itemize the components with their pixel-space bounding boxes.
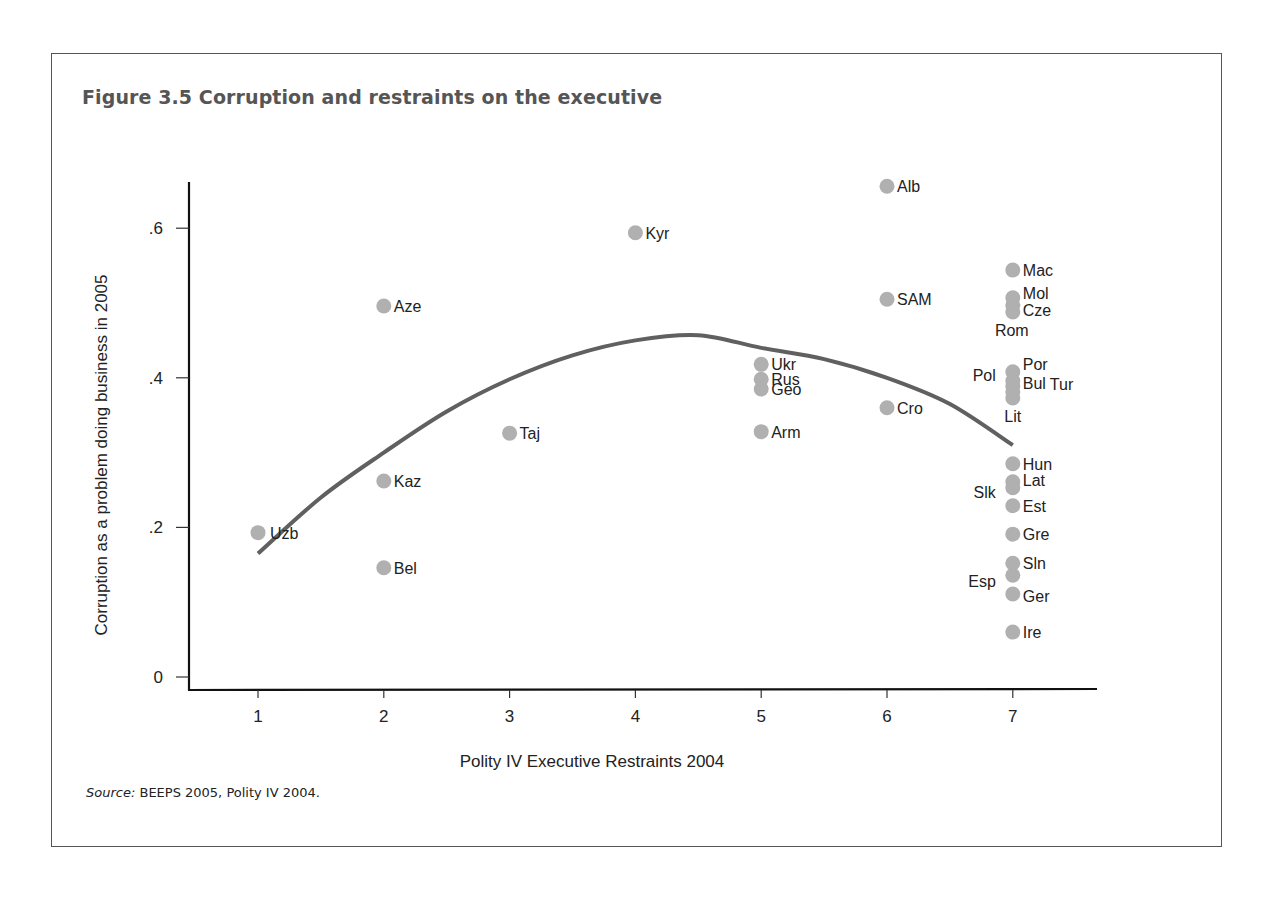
data-point-ire	[1005, 625, 1020, 640]
fit-curve	[258, 335, 1013, 554]
data-point-aze	[376, 298, 391, 313]
data-point-ger	[1005, 586, 1020, 601]
y-tick-label: .2	[149, 518, 163, 537]
point-label-sam: SAM	[897, 291, 932, 308]
point-label-est: Est	[1023, 498, 1047, 515]
point-label-mac: Mac	[1023, 262, 1053, 279]
data-point-kaz	[376, 474, 391, 489]
point-label-por: Por	[1023, 356, 1049, 373]
data-point-gre	[1005, 527, 1020, 542]
data-point-slk	[1005, 480, 1020, 495]
y-tick-label: .6	[149, 219, 163, 238]
point-label-aze: Aze	[394, 298, 422, 315]
point-label-esp: Esp	[968, 573, 996, 590]
point-label-mol: Mol	[1023, 285, 1049, 302]
data-points: UzbAzeKazBelTajKyrUkrRusGeoArmAlbSAMCroM…	[251, 178, 1074, 641]
x-axis-line	[188, 689, 1097, 690]
point-label-sln: Sln	[1023, 555, 1046, 572]
point-label-hun: Hun	[1023, 456, 1052, 473]
point-label-pol: Pol	[973, 367, 996, 384]
source-text: BEEPS 2005, Polity IV 2004.	[135, 785, 320, 800]
point-label-bul: Bul	[1023, 375, 1046, 392]
point-label-cro: Cro	[897, 400, 923, 417]
point-label-ger: Ger	[1023, 588, 1050, 605]
point-label-arm: Arm	[771, 424, 800, 441]
data-point-kyr	[628, 225, 643, 240]
quadratic-fit-line	[258, 335, 1013, 554]
source-note: Source: BEEPS 2005, Polity IV 2004.	[86, 785, 320, 800]
data-point-sam	[880, 292, 895, 307]
point-label-uzb: Uzb	[270, 525, 299, 542]
point-label-cze: Cze	[1023, 302, 1052, 319]
point-label-lat: Lat	[1023, 472, 1046, 489]
point-label-taj: Taj	[520, 425, 540, 442]
data-point-ukr	[754, 357, 769, 372]
data-point-hun	[1005, 456, 1020, 471]
data-point-mac	[1005, 263, 1020, 278]
x-tick-label: 2	[379, 707, 388, 726]
data-point-alb	[880, 179, 895, 194]
x-tick-label: 7	[1008, 707, 1017, 726]
scatter-plot: UzbAzeKazBelTajKyrUkrRusGeoArmAlbSAMCroM…	[0, 0, 1270, 901]
point-label-bel: Bel	[394, 560, 417, 577]
data-point-esp	[1005, 568, 1020, 583]
point-label-gre: Gre	[1023, 526, 1050, 543]
x-tick-label: 4	[631, 707, 640, 726]
data-point-taj	[502, 426, 517, 441]
data-point-geo	[754, 382, 769, 397]
x-tick-label: 5	[756, 707, 765, 726]
data-point-lit	[1005, 390, 1020, 405]
point-label-kaz: Kaz	[394, 473, 422, 490]
point-label-slk: Slk	[974, 484, 997, 501]
source-label: Source:	[86, 785, 135, 800]
data-point-arm	[754, 424, 769, 439]
point-label-alb: Alb	[897, 178, 920, 195]
x-tick-label: 3	[505, 707, 514, 726]
y-axis-title: Corruption as a problem doing business i…	[92, 274, 111, 635]
point-label-rom: Rom	[995, 322, 1029, 339]
point-label-kyr: Kyr	[645, 225, 670, 242]
point-label-geo: Geo	[771, 381, 801, 398]
data-point-rom	[1005, 304, 1020, 319]
axes	[176, 182, 1097, 698]
x-tick-label: 6	[882, 707, 891, 726]
data-point-bel	[376, 560, 391, 575]
point-label-lit: Lit	[1004, 408, 1021, 425]
y-tick-label: 0	[154, 668, 163, 687]
point-label-ire: Ire	[1023, 624, 1042, 641]
point-label-tur: Tur	[1050, 376, 1074, 393]
data-point-cro	[880, 400, 895, 415]
data-point-uzb	[251, 525, 266, 540]
y-tick-label: .4	[149, 369, 163, 388]
x-tick-label: 1	[253, 707, 262, 726]
data-point-est	[1005, 498, 1020, 513]
x-axis-title: Polity IV Executive Restraints 2004	[460, 752, 725, 771]
